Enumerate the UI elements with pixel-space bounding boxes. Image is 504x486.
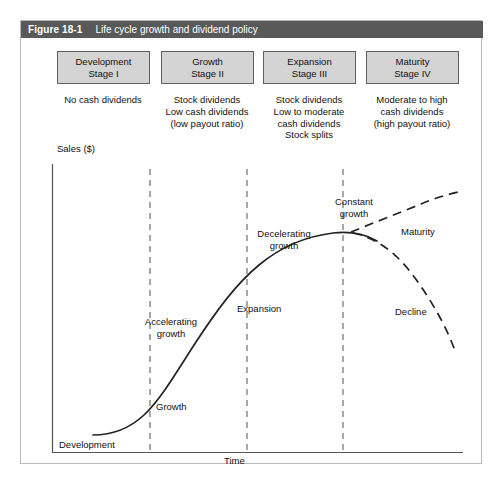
stage-description-maturity: Moderate to high cash dividends (high pa… xyxy=(358,94,466,129)
stage-name: Expansion xyxy=(287,56,331,68)
annotation-line: Accelerating xyxy=(133,316,209,328)
life-cycle-chart: Sales ($) Time Development Growth Accele… xyxy=(21,143,481,463)
stage-description-line: Stock dividends xyxy=(153,94,261,106)
stage-description-line: Moderate to high xyxy=(358,94,466,106)
annotation-line: growth xyxy=(246,240,322,252)
stage-description-line: Stock dividends xyxy=(255,94,363,106)
annotation-line: Constant xyxy=(323,196,385,208)
annotation-constant-growth: Constant growth xyxy=(323,196,385,219)
stage-box-expansion: Expansion Stage III xyxy=(263,51,356,84)
stage-description-line: (high payout ratio) xyxy=(358,118,466,130)
stage-number: Stage II xyxy=(191,68,224,80)
stage-description-line: Low cash dividends xyxy=(153,106,261,118)
stage-description-line: Stock splits xyxy=(255,129,363,141)
stage-description-line: (low payout ratio) xyxy=(153,118,261,130)
stage-name: Development xyxy=(76,56,132,68)
stage-box-maturity: Maturity Stage IV xyxy=(366,51,459,84)
annotation-decline: Decline xyxy=(395,306,427,318)
stage-box-development: Development Stage I xyxy=(57,51,150,84)
annotation-line: growth xyxy=(133,328,209,340)
annotation-line: growth xyxy=(323,208,385,220)
annotation-maturity: Maturity xyxy=(401,226,435,238)
stage-name: Growth xyxy=(192,56,223,68)
y-axis-label: Sales ($) xyxy=(57,143,95,155)
annotation-development: Development xyxy=(59,439,115,451)
stage-name: Maturity xyxy=(396,56,430,68)
figure-body: Development Stage I Growth Stage II Expa… xyxy=(21,38,481,463)
figure-container: Figure 18-1 Life cycle growth and divide… xyxy=(20,20,482,464)
annotation-line: Decelerating xyxy=(246,228,322,240)
annotation-decelerating-growth: Decelerating growth xyxy=(246,228,322,251)
stage-description-expansion: Stock dividends Low to moderate cash div… xyxy=(255,94,363,141)
annotation-growth: Growth xyxy=(156,401,187,413)
decline-curve-dashed xyxy=(353,233,455,351)
x-axis-label: Time xyxy=(224,455,245,467)
stage-description-line: cash dividends xyxy=(358,106,466,118)
annotation-accelerating-growth: Accelerating growth xyxy=(133,316,209,339)
stage-description-development: No cash dividends xyxy=(49,94,157,106)
figure-title: Life cycle growth and dividend policy xyxy=(95,24,257,35)
figure-caption-bar: Figure 18-1 Life cycle growth and divide… xyxy=(21,21,483,38)
figure-number: Figure 18-1 xyxy=(28,24,82,35)
stage-number: Stage I xyxy=(88,68,118,80)
stage-description-growth: Stock dividends Low cash dividends (low … xyxy=(153,94,261,129)
stage-number: Stage III xyxy=(292,68,327,80)
stage-description-line: No cash dividends xyxy=(49,94,157,106)
stage-description-line: Low to moderate xyxy=(255,106,363,118)
stage-number: Stage IV xyxy=(394,68,430,80)
annotation-expansion: Expansion xyxy=(237,303,281,315)
stage-description-line: cash dividends xyxy=(255,118,363,130)
stage-box-growth: Growth Stage II xyxy=(161,51,254,84)
